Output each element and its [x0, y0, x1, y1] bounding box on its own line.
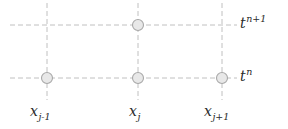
time-level-label-t-n-plus-1: tn+1 [240, 16, 266, 30]
time-label-base: t [240, 15, 246, 31]
space-label-base: x [129, 103, 137, 119]
space-label-base: x [30, 103, 38, 119]
stencil-node-node-jm1-n [42, 73, 53, 84]
stencil-node-node-jp1-n [217, 73, 228, 84]
finite-difference-stencil-figure: tn+1 tn xj-1 xj xj+1 [0, 0, 288, 129]
time-label-superscript: n [246, 66, 252, 77]
space-label-subscript: j [137, 111, 140, 122]
space-label-subscript: j+1 [212, 111, 229, 122]
space-point-label-x-j: xj [129, 104, 140, 118]
stencil-nodes-group [42, 20, 228, 84]
space-point-label-x-j-plus-1: xj+1 [204, 104, 229, 118]
space-point-label-x-j-minus-1: xj-1 [30, 104, 51, 118]
space-label-base: x [204, 103, 212, 119]
stencil-node-node-j-np1 [133, 20, 144, 31]
space-point-lines-group [47, 3, 222, 100]
time-label-base: t [240, 68, 246, 84]
time-level-label-t-n: tn [240, 69, 252, 83]
stencil-node-node-j-n [133, 73, 144, 84]
time-label-superscript: n+1 [246, 13, 266, 24]
time-level-lines-group [10, 25, 237, 78]
space-label-subscript: j-1 [38, 111, 50, 122]
